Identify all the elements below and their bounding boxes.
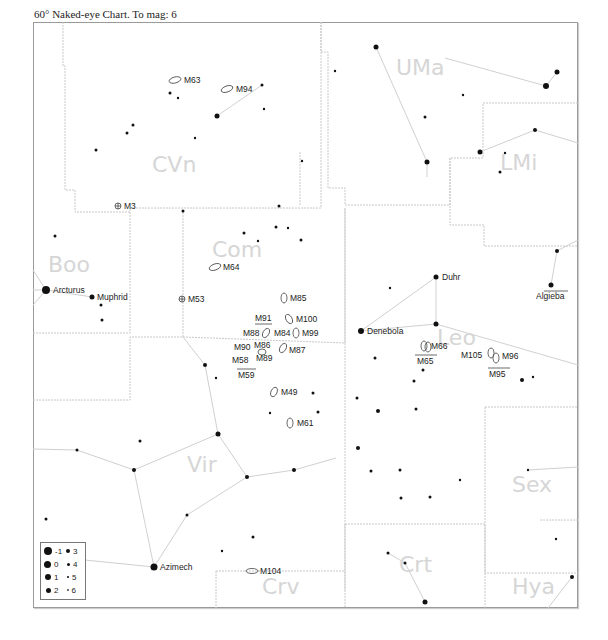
messier-label: M59 (238, 370, 255, 380)
messier-label: M105 (461, 350, 483, 360)
constellation-label: CVn (152, 152, 196, 177)
messier-label: M66 (431, 341, 448, 351)
messier-label: M53 (188, 294, 205, 304)
messier-label: M89 (256, 353, 273, 363)
constellation-label: Sex (512, 472, 552, 497)
star-label-duhr: Duhr (442, 272, 461, 282)
magnitude-legend: -1 0 1 2 3 4 5 6 (40, 542, 86, 600)
star-dot-icon (44, 561, 51, 568)
messier-label: M64 (223, 262, 240, 272)
star-dot-icon (45, 574, 51, 580)
messier-label: M95 (489, 369, 506, 379)
legend-item: -1 (44, 545, 62, 557)
constellation-label: Boo (48, 252, 90, 277)
messier-label: M100 (296, 314, 318, 324)
messier-label: M85 (290, 293, 307, 303)
star-dot-icon (67, 563, 70, 566)
star-label-denebola: Denebola (367, 326, 404, 336)
messier-label: M90 (234, 342, 251, 352)
star-label-arcturus: Arcturus (53, 285, 85, 295)
star-dot-icon (46, 588, 51, 593)
messier-label: M96 (502, 351, 519, 361)
star-label-algieba: Algieba (536, 291, 565, 301)
legend-item: 6 (67, 584, 76, 596)
star-dot-icon (67, 576, 69, 578)
legend-item: 0 (44, 558, 58, 570)
constellation-label: Vir (187, 452, 218, 477)
star-dot-icon (44, 547, 52, 555)
messier-label: M99 (302, 328, 319, 338)
star-label-muphrid: Muphrid (97, 292, 128, 302)
constellation-label: UMa (396, 55, 445, 80)
legend-item: 5 (67, 571, 76, 583)
messier-label: M58 (232, 355, 249, 365)
messier-label: M87 (289, 345, 306, 355)
star-dot-icon (67, 589, 69, 591)
stars (42, 45, 574, 605)
messier-label: M65 (417, 356, 434, 366)
constellation-label: Com (212, 237, 262, 262)
legend-item: 1 (45, 571, 58, 583)
messier-label: M63 (184, 75, 201, 85)
messier-label: M88 (243, 328, 260, 338)
messier-label: M104 (260, 566, 282, 576)
messier-label: M84 (274, 328, 291, 338)
constellation-label: Hya (512, 574, 555, 599)
star-chart-canvas[interactable]: CVn UMa LMi Boo Com Leo Vir Sex Crv Crt … (0, 0, 608, 640)
messier-label: M49 (281, 387, 298, 397)
messier-label: M86 (254, 340, 271, 350)
messier-label: M91 (255, 313, 272, 323)
messier-label: M61 (297, 418, 314, 428)
legend-item: 3 (66, 545, 77, 557)
constellation-labels: CVn UMa LMi Boo Com Leo Vir Sex Crv Crt … (48, 55, 555, 599)
messier-label: M3 (124, 201, 136, 211)
star-label-azimech: Azimech (160, 562, 193, 572)
legend-item: 4 (67, 558, 77, 570)
constellation-label: Crv (262, 574, 299, 599)
constellation-label: Crt (399, 552, 432, 577)
legend-item: 2 (46, 584, 58, 596)
star-dot-icon (66, 549, 70, 553)
messier-label: M94 (236, 84, 253, 94)
